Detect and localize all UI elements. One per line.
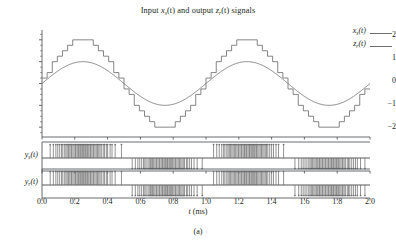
pulse-tip — [100, 144, 102, 146]
pulse-tip — [275, 171, 277, 173]
pulse-tip — [139, 195, 141, 197]
pulse-tip — [111, 144, 113, 146]
pulse-tip — [275, 144, 277, 146]
pulse-tip — [218, 171, 220, 173]
pulse-tip — [355, 195, 357, 197]
pulse-tip — [137, 195, 139, 197]
pulse-tip — [109, 144, 111, 146]
pulse-tip — [189, 195, 191, 197]
pulse-tip — [267, 144, 269, 146]
figure-panel-a: Input xs(t) and output zr(t) signals xs(… — [0, 0, 396, 248]
pulse-tip — [360, 195, 362, 197]
pulse-tip — [269, 171, 271, 173]
pulse-tip — [109, 171, 111, 173]
pulse-tip — [221, 171, 223, 173]
pulse-panel-yr — [42, 169, 370, 201]
pulse-tip — [273, 171, 275, 173]
pulse-tip — [57, 171, 59, 173]
pulse-tip — [135, 195, 137, 197]
pulse-tip — [62, 144, 64, 146]
pulse-tip — [107, 171, 109, 173]
pulse-tip — [278, 144, 280, 146]
pulse-tip — [271, 171, 273, 173]
pulse-tip — [213, 171, 215, 173]
pulse-tip — [267, 171, 269, 173]
pulse-tip — [53, 144, 55, 146]
pulse-tip — [345, 195, 347, 197]
pulse-tip — [294, 195, 296, 197]
plot-drawing-area — [0, 0, 396, 248]
pulse-tip — [302, 195, 304, 197]
pulse-tip — [224, 144, 226, 146]
pulse-tip — [114, 171, 116, 173]
pulse-tip — [141, 195, 143, 197]
pulse-tip — [196, 195, 198, 197]
pulse-tip — [111, 171, 113, 173]
pulse-tip — [213, 144, 215, 146]
pulse-tip — [283, 144, 285, 146]
pulse-tip — [271, 144, 273, 146]
pulse-tip — [353, 195, 355, 197]
pulse-tip — [201, 195, 203, 197]
pulse-tip — [53, 171, 55, 173]
pulse-tip — [49, 171, 51, 173]
pulse-tip — [300, 195, 302, 197]
pulse-tip — [100, 171, 102, 173]
pulse-tip — [298, 195, 300, 197]
pulse-tip — [59, 144, 61, 146]
pulse-tip — [49, 144, 51, 146]
pulse-tip — [131, 195, 133, 197]
pulse-tip — [351, 195, 353, 197]
pulse-tip — [104, 171, 106, 173]
pulse-tip — [104, 144, 106, 146]
pulse-tip — [269, 144, 271, 146]
pulse-tip — [187, 195, 189, 197]
pulse-tip — [306, 195, 308, 197]
pulse-tip — [59, 171, 61, 173]
pulse-tip — [145, 195, 147, 197]
pulse-tip — [184, 195, 186, 197]
pulse-tip — [62, 171, 64, 173]
pulse-tip — [357, 195, 359, 197]
pulse-tip — [191, 195, 193, 197]
pulse-tip — [55, 171, 57, 173]
pulse-tip — [55, 144, 57, 146]
pulse-tip — [283, 171, 285, 173]
pulse-tip — [273, 144, 275, 146]
pulse-tip — [216, 144, 218, 146]
pulse-tip — [224, 171, 226, 173]
pulse-tip — [364, 195, 366, 197]
pulse-tip — [193, 195, 195, 197]
pulse-tip — [349, 195, 351, 197]
pulse-tip — [218, 144, 220, 146]
pulse-tip — [304, 195, 306, 197]
pulse-tip — [57, 144, 59, 146]
pulse-tip — [121, 171, 123, 173]
pulse-tip — [216, 171, 218, 173]
pulse-tip — [114, 144, 116, 146]
pulse-tip — [278, 171, 280, 173]
series-zr-staircase — [42, 40, 370, 127]
pulse-tip — [221, 144, 223, 146]
pulse-tip — [121, 144, 123, 146]
pulse-tip — [107, 144, 109, 146]
